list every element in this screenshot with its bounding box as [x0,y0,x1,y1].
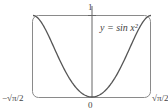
x-tick-label-origin: 0 [88,100,93,110]
x-tick-label-right: √π/2 [152,93,168,103]
equation-label: y = sin x² [100,23,138,33]
x-tick-label-left: −√π/2 [2,93,24,103]
function-plot [0,0,168,112]
y-tick-label-1: 1 [88,2,93,12]
